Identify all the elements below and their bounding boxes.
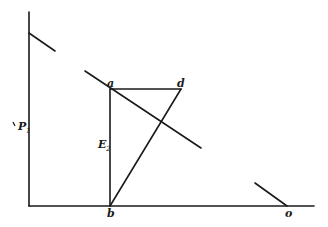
label-a: a xyxy=(107,77,114,90)
upper-slant-segment xyxy=(29,33,55,51)
line-b-d xyxy=(110,89,181,206)
diagram-canvas: a d b o P 1 E 2 xyxy=(0,0,328,227)
label-b: b xyxy=(107,207,115,220)
label-o: o xyxy=(285,207,292,220)
lower-slant-segment xyxy=(255,183,287,206)
label-P-subscript: 1 xyxy=(26,127,30,135)
stray-tick-mark xyxy=(13,122,15,126)
label-E-subscript: 2 xyxy=(105,145,111,153)
label-d: d xyxy=(177,77,185,90)
